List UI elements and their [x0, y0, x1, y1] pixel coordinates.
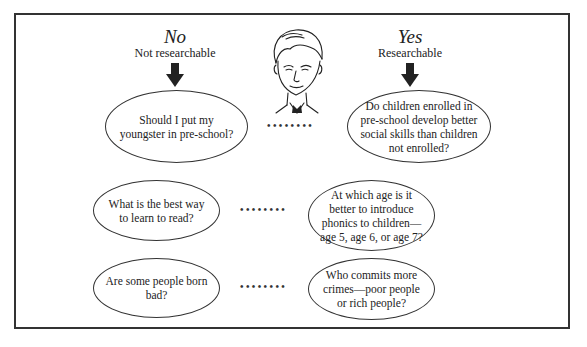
man-face-icon — [262, 25, 332, 117]
no-heading: No — [115, 26, 235, 48]
researchable-question-2: At which age is it better to introduce p… — [308, 180, 435, 251]
question-text: Do children enrolled in pre-school devel… — [358, 99, 480, 155]
question-text: Should I put my youngster in pre-school? — [116, 113, 237, 141]
yes-heading: Yes — [350, 26, 470, 48]
arrow-down-icon — [166, 63, 184, 87]
not-researchable-question-3: Are some people born bad? — [93, 258, 220, 318]
not-researchable-label: Not researchable — [105, 46, 245, 61]
not-researchable-question-1: Should I put my youngster in pre-school? — [105, 90, 248, 163]
researchable-label: Researchable — [340, 46, 480, 61]
arrow-down-icon — [401, 63, 419, 87]
researchable-question-3: Who commits more crimes—poor people or r… — [308, 258, 435, 320]
question-text: At which age is it better to introduce p… — [319, 188, 424, 244]
not-researchable-question-2: What is the best way to learn to read? — [93, 180, 220, 241]
question-text: Who commits more crimes—poor people or r… — [319, 268, 424, 310]
connector-dots: •••••••• — [267, 120, 314, 131]
connector-dots: •••••••• — [240, 204, 287, 215]
researchable-question-1: Do children enrolled in pre-school devel… — [347, 90, 491, 163]
question-text: Are some people born bad? — [104, 274, 209, 302]
connector-dots: •••••••• — [240, 281, 287, 292]
question-text: What is the best way to learn to read? — [104, 197, 209, 225]
